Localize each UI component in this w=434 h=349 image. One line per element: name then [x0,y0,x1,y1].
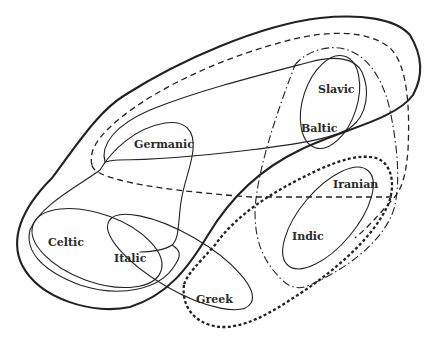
isogloss-diagram: Germanic Slavic Baltic Iranian Indic Cel… [0,0,434,349]
label-greek: Greek [196,293,233,306]
celtic-ellipse [21,193,172,303]
indo-iranian-ellipse [267,153,390,284]
label-germanic: Germanic [134,138,194,151]
label-iranian: Iranian [333,178,378,191]
outer-thick-boundary [17,17,420,310]
label-indic: Indic [292,230,324,243]
label-slavic: Slavic [318,83,355,96]
label-italic: Italic [114,252,147,265]
long-dashed-isogloss [91,33,408,238]
label-celtic: Celtic [48,236,84,249]
label-baltic: Baltic [301,122,338,135]
